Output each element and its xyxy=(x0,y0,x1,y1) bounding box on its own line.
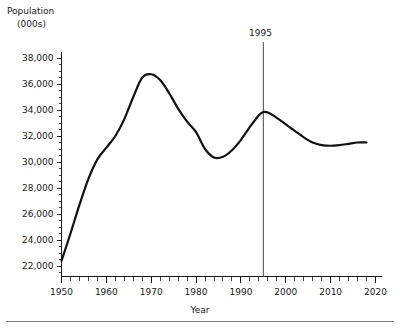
population-series-line xyxy=(62,74,367,261)
y-tick-label: 30,000 xyxy=(22,157,54,167)
x-axis-minor-ticks xyxy=(70,277,366,281)
x-tick-label: 2010 xyxy=(319,287,342,297)
y-tick-label: 34,000 xyxy=(22,105,54,115)
x-tick-label: 1970 xyxy=(140,287,163,297)
y-tick-label: 24,000 xyxy=(22,235,54,245)
y-tick-label: 22,000 xyxy=(22,261,54,271)
y-tick-label: 32,000 xyxy=(22,131,54,141)
x-axis-title: Year xyxy=(0,305,400,316)
x-tick-label: 2000 xyxy=(274,287,297,297)
x-tick-label: 1960 xyxy=(95,287,118,297)
x-tick-label: 1990 xyxy=(229,287,252,297)
x-axis-tick-labels: 19501960197019801990200020102020 xyxy=(50,287,387,297)
y-tick-label: 26,000 xyxy=(22,209,54,219)
x-axis-major-ticks xyxy=(62,277,376,283)
y-tick-label: 36,000 xyxy=(22,79,54,89)
population-line-chart: Population (000s) 1995 22,00024,00026,00… xyxy=(0,0,400,328)
y-tick-label: 38,000 xyxy=(22,53,54,63)
plot-area: 22,00024,00026,00028,00030,00032,00034,0… xyxy=(0,0,400,328)
y-axis-major-ticks xyxy=(57,58,62,266)
x-tick-label: 2020 xyxy=(364,287,387,297)
x-tick-label: 1980 xyxy=(185,287,208,297)
y-tick-label: 28,000 xyxy=(22,183,54,193)
y-axis-tick-labels: 22,00024,00026,00028,00030,00032,00034,0… xyxy=(22,53,54,271)
x-tick-label: 1950 xyxy=(50,287,73,297)
